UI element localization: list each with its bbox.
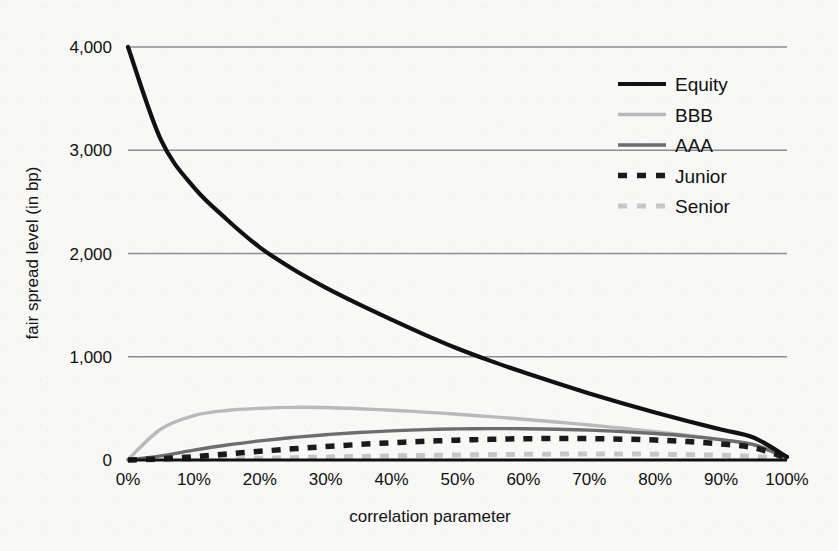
legend-label-bbb: BBB [675,105,713,126]
x-tick-label: 20% [243,470,277,489]
fair-spread-vs-correlation-chart: 01,0002,0003,0004,000 0%10%20%30%40%50%6… [0,0,838,551]
series-line-bbb [128,407,787,459]
x-tick-label: 60% [506,470,540,489]
x-axis-tick-labels: 0%10%20%30%40%50%60%70%80%90%100% [116,470,809,489]
y-tick-label: 1,000 [69,348,112,367]
x-tick-label: 50% [440,470,474,489]
x-tick-label: 10% [177,470,211,489]
y-axis-tick-labels: 01,0002,0003,0004,000 [69,38,112,470]
y-tick-label: 4,000 [69,38,112,57]
x-tick-label: 70% [572,470,606,489]
legend-label-equity: Equity [675,74,728,95]
y-axis-title: fair spread level (in bp) [23,167,42,340]
legend-label-junior: Junior [675,166,727,187]
x-axis-title: correlation parameter [349,507,511,526]
y-tick-label: 3,000 [69,141,112,160]
chart-page: 01,0002,0003,0004,000 0%10%20%30%40%50%6… [0,0,838,551]
x-tick-label: 90% [704,470,738,489]
x-tick-label: 0% [116,470,141,489]
legend-label-senior: Senior [675,196,731,217]
x-tick-label: 30% [309,470,343,489]
y-tick-label: 2,000 [69,245,112,264]
chart-legend: EquityBBBAAAJuniorSenior [618,74,731,217]
x-tick-label: 80% [638,470,672,489]
y-tick-label: 0 [103,451,112,470]
x-tick-label: 40% [375,470,409,489]
x-tick-label: 100% [765,470,808,489]
legend-label-aaa: AAA [675,135,713,156]
